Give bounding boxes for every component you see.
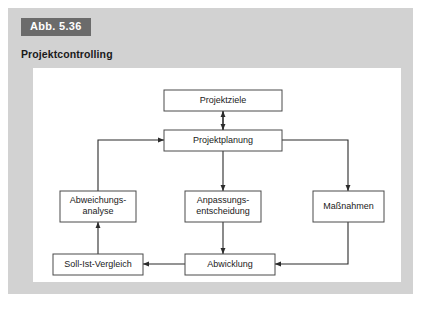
- node-label-massnahmen: Maßnahmen: [323, 201, 374, 211]
- figure-title: Projektcontrolling: [21, 48, 113, 60]
- flow-node-soll-ist-vergleich[interactable]: Soll-Ist-Vergleich: [53, 254, 143, 275]
- node-label-abwicklung: Abwicklung: [207, 259, 253, 269]
- figure-card: Abb. 5.36 Projektcontrolling Projektziel…: [8, 8, 413, 294]
- flow-node-abwicklung[interactable]: Abwicklung: [185, 254, 275, 275]
- node-label-abweichungsanalyse: Abweichungs-: [70, 195, 127, 205]
- flow-edge-abweichungsanalyse-to-projektplanung: [98, 140, 164, 191]
- flow-edge-projektplanung-to-massnahmen: [282, 140, 348, 191]
- flow-node-anpassungsentscheidung[interactable]: Anpassungs-entscheidung: [185, 191, 261, 222]
- node-label-anpassungsentscheidung: entscheidung: [196, 206, 250, 216]
- flow-edge-massnahmen-to-abwicklung: [275, 222, 348, 264]
- flow-node-abweichungsanalyse[interactable]: Abweichungs-analyse: [60, 191, 136, 222]
- node-label-projektplanung: Projektplanung: [193, 135, 253, 145]
- flow-node-massnahmen[interactable]: Maßnahmen: [313, 191, 384, 222]
- node-label-soll-ist-vergleich: Soll-Ist-Vergleich: [64, 259, 132, 269]
- node-layer: ProjektzieleProjektplanungAbweichungs-an…: [53, 90, 384, 275]
- flow-node-projektplanung[interactable]: Projektplanung: [164, 130, 282, 151]
- diagram-panel: ProjektzieleProjektplanungAbweichungs-an…: [33, 68, 401, 282]
- flow-node-projektziele[interactable]: Projektziele: [164, 90, 282, 111]
- node-label-projektziele: Projektziele: [200, 95, 247, 105]
- figure-number-badge: Abb. 5.36: [21, 18, 91, 36]
- node-label-anpassungsentscheidung: Anpassungs-: [197, 195, 250, 205]
- node-label-abweichungsanalyse: analyse: [82, 206, 113, 216]
- flowchart-diagram: ProjektzieleProjektplanungAbweichungs-an…: [33, 68, 401, 282]
